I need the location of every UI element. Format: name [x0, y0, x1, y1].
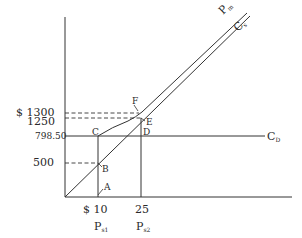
cd-label: CD	[267, 130, 280, 143]
xtick-10: $ 10	[83, 203, 108, 216]
ytick-1250: 1250	[27, 115, 55, 128]
pm-label: Pm	[216, 0, 235, 17]
ps1-label: Ps1	[94, 220, 108, 233]
ytick-798: 798.50	[35, 131, 67, 141]
xtick-25: 25	[135, 203, 149, 216]
point-a-label: A	[103, 182, 111, 192]
point-b-label: B	[102, 164, 109, 174]
a-pointer	[98, 189, 103, 195]
ytick-500: 500	[33, 156, 54, 169]
point-f-label: F	[132, 96, 138, 106]
point-d-label: D	[143, 127, 150, 137]
cs-line	[65, 16, 250, 197]
point-c-label: C	[92, 127, 99, 137]
ps2-label: Ps2	[136, 220, 150, 233]
point-e-label: E	[146, 117, 153, 127]
cost-price-diagram: $ 1300 1250 798.50 500 $ 10 25 Ps1 Ps2 A…	[0, 0, 302, 238]
